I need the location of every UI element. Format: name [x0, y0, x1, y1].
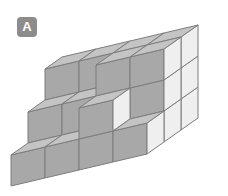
figure-canvas: A	[0, 0, 228, 196]
cube-faces-group	[11, 25, 198, 186]
cube-stack-illustration	[0, 0, 228, 196]
